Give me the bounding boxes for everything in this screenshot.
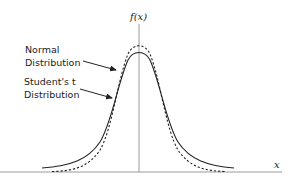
t-label-line1: Student's t <box>24 76 76 87</box>
y-axis-label: f(x) <box>129 11 147 22</box>
t-annotation: Student's t Distribution <box>24 76 112 100</box>
t-label-line2: Distribution <box>24 89 79 100</box>
normal-label-line2: Distribution <box>25 57 80 68</box>
distribution-diagram: f(x) x Normal Distribution Student's t D… <box>0 0 303 184</box>
t-arrow <box>80 89 112 98</box>
t-curve <box>42 53 234 169</box>
x-axis-label: x <box>274 159 280 170</box>
normal-label-line1: Normal <box>25 44 59 55</box>
normal-arrow <box>83 61 116 70</box>
normal-annotation: Normal Distribution <box>25 44 116 70</box>
